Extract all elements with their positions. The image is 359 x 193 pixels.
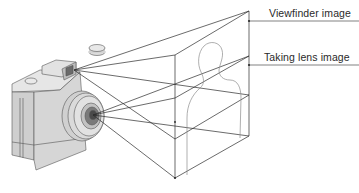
taking-lens-image-label: Taking lens image <box>264 51 350 63</box>
field-of-view-lines <box>74 11 249 178</box>
camera-illustration <box>12 45 105 171</box>
viewfinder-image-label: Viewfinder image <box>269 7 351 19</box>
frame-corner-markers <box>174 20 250 179</box>
parallax-diagram <box>0 0 359 193</box>
